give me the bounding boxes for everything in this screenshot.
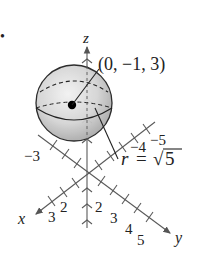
tick-label-y-4: 4	[125, 221, 133, 237]
tick-label-y-5: 5	[137, 232, 145, 248]
bullet-marker: •	[0, 29, 5, 44]
tick-label-y-2: 2	[95, 199, 103, 215]
svg-text:5: 5	[165, 148, 175, 169]
sphere-diagram: •	[0, 0, 211, 274]
y-axis	[38, 135, 170, 233]
tick-label-x-2: 2	[60, 199, 68, 215]
y-axis-label: y	[173, 229, 183, 247]
svg-text:√: √	[153, 148, 164, 169]
z-axis-label: z	[82, 30, 89, 46]
x-axis-label: x	[17, 210, 25, 227]
tick-label-y-3: 3	[110, 210, 118, 226]
tick-label-neg-4: −4	[130, 139, 146, 155]
sphere	[36, 65, 118, 159]
tick-label-neg-5: −5	[150, 132, 166, 148]
tick-label-neg-3: −3	[24, 148, 40, 164]
tick-label-x-3: 3	[48, 209, 56, 225]
svg-text:r: r	[121, 148, 129, 169]
center-label: (0, −1, 3)	[98, 54, 165, 75]
